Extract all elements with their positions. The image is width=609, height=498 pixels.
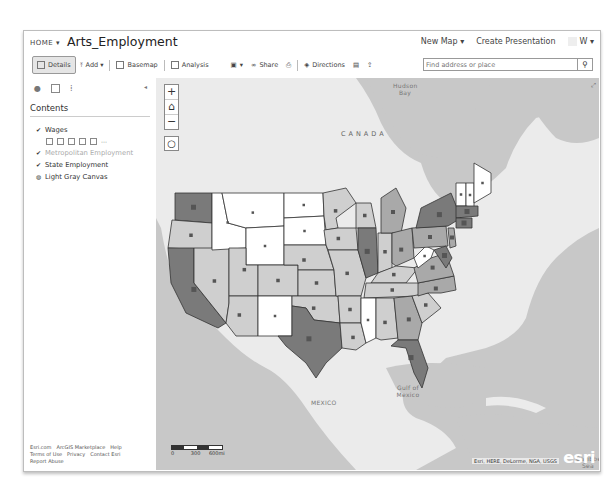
- employment-marker[interactable]: [363, 214, 367, 218]
- employment-marker[interactable]: [460, 193, 463, 196]
- save-button[interactable]: ▣▾: [227, 57, 247, 73]
- employment-marker[interactable]: [213, 279, 217, 283]
- employment-marker[interactable]: [191, 205, 196, 210]
- employment-marker[interactable]: [238, 313, 242, 317]
- legend-tool-icon[interactable]: [46, 138, 53, 145]
- analysis-button[interactable]: Analysis: [167, 57, 213, 73]
- employment-marker[interactable]: [312, 306, 316, 310]
- search-icon[interactable]: ⚲: [577, 58, 592, 71]
- employment-marker[interactable]: [423, 255, 426, 258]
- employment-marker[interactable]: [243, 268, 247, 272]
- employment-marker[interactable]: [437, 212, 442, 217]
- employment-marker[interactable]: [315, 281, 319, 285]
- create-presentation-link[interactable]: Create Presentation: [476, 37, 555, 46]
- employment-marker[interactable]: [428, 235, 432, 239]
- basemap-button[interactable]: Basemap: [112, 57, 161, 73]
- cuba: [486, 397, 546, 413]
- home-extent-icon[interactable]: ⌂: [165, 100, 178, 115]
- filter-tool-icon[interactable]: [79, 138, 86, 145]
- employment-marker[interactable]: [306, 336, 311, 341]
- print-button[interactable]: ⎙: [282, 57, 295, 73]
- directions-icon: ◈: [304, 61, 309, 69]
- state-iowa[interactable]: [324, 228, 358, 250]
- analysis-tool-icon[interactable]: [90, 138, 97, 145]
- home-menu[interactable]: HOME ▾: [30, 39, 60, 47]
- employment-marker[interactable]: [434, 287, 438, 291]
- table-tool-icon[interactable]: [57, 138, 64, 145]
- employment-marker[interactable]: [383, 321, 387, 325]
- employment-marker[interactable]: [302, 258, 306, 262]
- layer-state-employment[interactable]: ✔ State Employment: [36, 161, 108, 169]
- footer-link[interactable]: Privacy: [67, 451, 85, 457]
- employment-marker[interactable]: [424, 303, 428, 307]
- employment-marker[interactable]: [303, 204, 306, 207]
- employment-marker[interactable]: [481, 182, 484, 185]
- employment-marker[interactable]: [450, 236, 454, 240]
- employment-marker[interactable]: [226, 221, 229, 224]
- more-options-icon[interactable]: ⋯: [101, 138, 107, 145]
- collapse-panel-icon[interactable]: ◂: [144, 83, 147, 90]
- employment-marker[interactable]: [334, 209, 338, 213]
- employment-marker[interactable]: [399, 248, 403, 252]
- state-montana[interactable]: [222, 193, 284, 228]
- employment-marker[interactable]: [465, 209, 470, 214]
- employment-marker[interactable]: [351, 336, 355, 340]
- user-menu[interactable]: W ▾: [568, 37, 594, 46]
- footer-link[interactable]: Help: [110, 444, 121, 450]
- employment-marker[interactable]: [367, 319, 370, 322]
- about-icon[interactable]: ●: [34, 84, 41, 93]
- measure-button[interactable]: ▤: [349, 57, 363, 73]
- map-view[interactable]: + ⌂ − ○ CANADA Hudson Bay MEXICO Gulf of…: [156, 78, 599, 470]
- checkbox[interactable]: ✔: [36, 162, 42, 168]
- locate-icon[interactable]: ○: [164, 136, 179, 151]
- employment-marker[interactable]: [345, 272, 349, 276]
- employment-marker[interactable]: [365, 249, 370, 254]
- footer-link[interactable]: ArcGIS Marketplace: [56, 444, 105, 450]
- new-map-menu[interactable]: New Map ▾: [421, 37, 464, 46]
- employment-marker[interactable]: [407, 317, 411, 321]
- employment-marker[interactable]: [303, 230, 306, 233]
- footer-link[interactable]: Report Abuse: [30, 458, 64, 464]
- layer-metropolitan-employment[interactable]: ✔ Metropolitan Employment: [36, 149, 133, 157]
- employment-marker[interactable]: [252, 211, 255, 214]
- footer-link[interactable]: Terms of Use: [30, 451, 62, 457]
- style-tool-icon[interactable]: [68, 138, 75, 145]
- employment-marker[interactable]: [348, 308, 352, 312]
- employment-marker[interactable]: [392, 273, 396, 277]
- employment-marker[interactable]: [191, 287, 196, 292]
- employment-marker[interactable]: [442, 253, 447, 258]
- employment-marker[interactable]: [189, 234, 193, 238]
- employment-marker[interactable]: [391, 288, 395, 292]
- directions-button[interactable]: ◈Directions: [300, 57, 349, 73]
- scale-bar: 0 300 600mi: [171, 445, 225, 456]
- layer-tools: ⋯: [46, 138, 107, 145]
- employment-marker[interactable]: [337, 237, 341, 241]
- employment-marker[interactable]: [383, 250, 387, 254]
- expand-map-icon[interactable]: ⤢: [591, 81, 596, 89]
- employment-marker[interactable]: [274, 315, 277, 318]
- employment-marker[interactable]: [264, 245, 267, 248]
- layer-light-gray-canvas[interactable]: ◍ Light Gray Canvas: [36, 173, 107, 181]
- employment-marker[interactable]: [409, 355, 414, 360]
- add-button[interactable]: ⤒Add ▾: [76, 57, 108, 73]
- footer-links: Esri.comArcGIS MarketplaceHelp Terms of …: [30, 444, 155, 465]
- employment-marker[interactable]: [469, 194, 472, 197]
- zoom-out-button[interactable]: −: [165, 115, 178, 129]
- employment-marker[interactable]: [431, 266, 435, 270]
- bookmarks-button[interactable]: ⇪: [363, 57, 376, 73]
- content-icon[interactable]: [51, 84, 60, 93]
- checkbox[interactable]: ✔: [36, 127, 42, 133]
- employment-marker[interactable]: [462, 221, 467, 226]
- footer-link[interactable]: Contact Esri: [90, 451, 120, 457]
- details-button[interactable]: Details: [32, 56, 76, 74]
- footer-link[interactable]: Esri.com: [30, 444, 51, 450]
- share-button[interactable]: ∞Share: [247, 57, 282, 73]
- search-box: ⚲: [423, 58, 593, 71]
- employment-marker[interactable]: [276, 279, 280, 283]
- layer-wages[interactable]: ✔ Wages: [36, 126, 68, 134]
- search-input[interactable]: [426, 60, 576, 69]
- zoom-in-button[interactable]: +: [165, 85, 178, 100]
- employment-marker[interactable]: [391, 210, 395, 214]
- checkbox[interactable]: ✔: [36, 150, 42, 156]
- legend-icon[interactable]: ⁞: [70, 84, 73, 93]
